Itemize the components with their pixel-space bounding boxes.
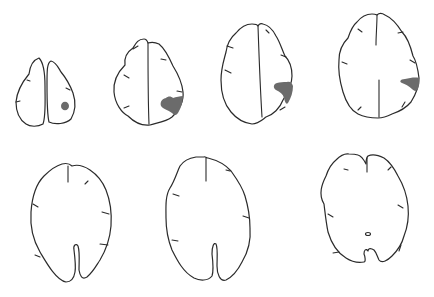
brain-slice-4 — [339, 14, 420, 119]
brain-slice-2 — [114, 39, 183, 125]
brain-slice-7 — [321, 154, 408, 263]
left-hemisphere — [16, 58, 45, 126]
brain-slice-5 — [31, 164, 111, 282]
right-hemisphere — [47, 61, 75, 124]
lesion — [61, 102, 69, 111]
brain-slice-3 — [221, 24, 293, 124]
brain-slice-1 — [16, 58, 75, 126]
brain-outline — [31, 164, 111, 282]
brain-outline — [166, 157, 250, 281]
brain-slice-6 — [166, 157, 250, 281]
brain-outline — [321, 154, 408, 263]
brain-slices-figure — [0, 0, 434, 297]
